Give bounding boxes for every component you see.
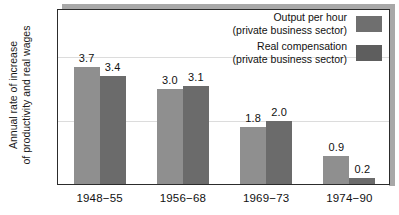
legend-item-label: Output per hour (private business sector…	[233, 11, 347, 36]
bar	[100, 76, 126, 184]
bar	[74, 67, 100, 184]
legend-label-line2: (private business sector)	[233, 24, 347, 37]
x-axis-category-label: 1948−55	[55, 192, 145, 204]
bar-chart-figure: Annual rate of increase of productivity …	[0, 0, 399, 215]
bar-value-label: 3.1	[177, 71, 215, 83]
bar-value-label: 2.0	[260, 106, 298, 118]
bar	[240, 127, 266, 184]
legend-item-real-compensation[interactable]: Real compensation (private business sect…	[196, 40, 382, 65]
x-axis-category-label: 1974−90	[304, 192, 394, 204]
legend-label-line1: Output per hour	[233, 11, 347, 24]
legend-swatch-real-compensation	[356, 45, 382, 61]
x-axis-category-label: 1956−68	[138, 192, 228, 204]
bar-value-label: 0.9	[317, 141, 355, 153]
bar-value-label: 3.4	[94, 61, 132, 73]
y-axis-title: Annual rate of increase of productivity …	[2, 7, 38, 183]
legend-item-label: Real compensation (private business sect…	[233, 40, 347, 65]
legend-swatch-output-per-hour	[356, 16, 382, 32]
bar	[266, 121, 292, 184]
bar	[183, 86, 209, 184]
y-axis-title-line1: Annual rate of increase	[7, 41, 20, 149]
bar	[157, 89, 183, 184]
legend-label-line1: Real compensation	[233, 40, 347, 53]
bar	[349, 178, 375, 184]
y-axis-title-line2: of productivity and real wages	[20, 26, 33, 165]
x-axis-category-label: 1969−73	[221, 192, 311, 204]
legend-label-line2: (private business sector)	[233, 53, 347, 66]
legend: Output per hour (private business sector…	[196, 11, 382, 69]
legend-item-output-per-hour[interactable]: Output per hour (private business sector…	[196, 11, 382, 36]
bar-value-label: 0.2	[343, 163, 381, 175]
